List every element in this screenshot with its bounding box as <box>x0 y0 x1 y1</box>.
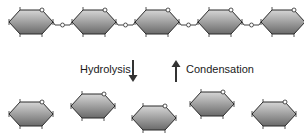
polymer-chain <box>9 7 304 37</box>
oxygen-linkage <box>116 22 135 27</box>
monomer-ring-icon <box>135 7 179 37</box>
hydrolysis-label: Hydrolysis <box>80 63 131 75</box>
monomer-ring-icon <box>71 91 115 121</box>
oxygen-linkage <box>242 22 261 27</box>
monomer-ring-icon <box>9 7 53 37</box>
condensation-label: Condensation <box>186 63 254 75</box>
monomer-ring-icon <box>132 103 176 133</box>
monomer-set <box>9 89 296 133</box>
oxygen-linkage <box>179 22 198 27</box>
monomer-ring-icon <box>198 7 242 37</box>
monomer-ring-icon <box>261 7 304 37</box>
monomer-ring-icon <box>252 99 296 129</box>
monomer-ring-icon <box>72 7 116 37</box>
condensation-arrow-icon <box>172 60 181 82</box>
hydrolysis-condensation-diagram: Hydrolysis Condensation <box>0 0 304 138</box>
oxygen-linkage <box>53 22 72 27</box>
diagram-canvas <box>0 0 304 138</box>
monomer-ring-icon <box>190 89 234 119</box>
monomer-ring-icon <box>9 99 53 129</box>
